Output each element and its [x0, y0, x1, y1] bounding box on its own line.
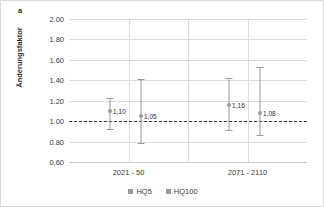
- plot-area: 0.600.801.001.201.401.601.802.00 1,101,1…: [69, 19, 307, 162]
- data-point-marker: [139, 114, 143, 118]
- data-point-label: 1,08: [263, 110, 276, 117]
- category-divider: [248, 19, 249, 162]
- reference-line: [69, 121, 307, 122]
- data-point-marker: [227, 103, 231, 107]
- y-axis-tick-label: 0.60: [49, 158, 64, 167]
- error-bar-cap: [138, 143, 145, 144]
- legend-item[interactable]: HQ5: [128, 187, 151, 196]
- error-bar: [110, 98, 111, 130]
- error-bar: [260, 67, 261, 135]
- y-axis-tick-label: 2.00: [49, 15, 64, 24]
- y-axis-tick-label: 1.20: [49, 96, 64, 105]
- category-divider: [188, 19, 189, 162]
- data-point-marker: [258, 111, 262, 115]
- x-axis-tick-label: 2021 - 50: [113, 168, 145, 177]
- y-axis-tick-label: 1.60: [49, 55, 64, 64]
- error-bar-cap: [138, 79, 145, 80]
- error-bar-cap: [257, 67, 264, 68]
- category-divider: [129, 19, 130, 162]
- legend-item[interactable]: HQ100: [166, 187, 198, 196]
- chart-figure: a Änderungsfaktor 0.600.801.001.201.401.…: [0, 0, 324, 207]
- y-axis-tick-label: 1.40: [49, 76, 64, 85]
- error-bar-cap: [257, 135, 264, 136]
- data-point-marker: [108, 109, 112, 113]
- y-axis-tick-label: 0.80: [49, 137, 64, 146]
- legend-swatch-icon: [128, 189, 133, 194]
- y-axis-title: Änderungsfaktor: [15, 10, 24, 106]
- legend: HQ5HQ100: [1, 187, 324, 196]
- data-point-label: 1,05: [144, 113, 157, 120]
- legend-swatch-icon: [166, 189, 171, 194]
- y-axis-tick-label: 1.00: [49, 117, 64, 126]
- error-bar-cap: [107, 129, 114, 130]
- legend-label: HQ5: [136, 187, 151, 196]
- error-bar-cap: [226, 78, 233, 79]
- data-point-label: 1,16: [232, 101, 245, 108]
- data-point-label: 1,10: [113, 107, 126, 114]
- error-bar-cap: [226, 130, 233, 131]
- x-axis-tick-label: 2071 - 2110: [228, 168, 267, 177]
- x-axis-line: [69, 162, 307, 163]
- legend-label: HQ100: [174, 187, 198, 196]
- y-axis-tick-label: 1.80: [49, 35, 64, 44]
- error-bar-cap: [107, 98, 114, 99]
- error-bar: [141, 79, 142, 142]
